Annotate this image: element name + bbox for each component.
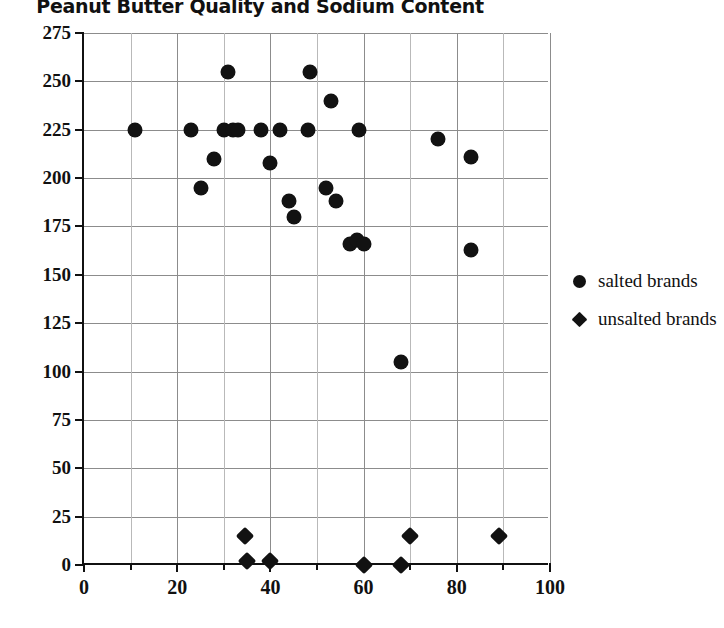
data-point-circle xyxy=(272,122,287,137)
y-axis-tick xyxy=(75,516,84,518)
gridline-horizontal xyxy=(84,420,548,421)
y-axis-tick-label: 0 xyxy=(62,554,72,576)
gridline-horizontal xyxy=(84,130,548,131)
y-axis-tick xyxy=(75,177,84,179)
x-axis-tick-label: 100 xyxy=(535,576,565,599)
legend-label-salted: salted brands xyxy=(598,270,698,292)
x-axis-tick-label: 60 xyxy=(354,576,374,599)
chart-legend: salted brands unsalted brands xyxy=(566,262,717,338)
plot-area: 0255075100125150175200225250275020406080… xyxy=(82,33,548,565)
data-point-circle xyxy=(393,354,408,369)
y-axis-tick xyxy=(75,225,84,227)
data-point-circle xyxy=(463,242,478,257)
legend-item-unsalted[interactable]: unsalted brands xyxy=(566,300,717,338)
circle-marker-icon xyxy=(566,275,592,288)
gridline-horizontal xyxy=(84,178,548,179)
data-point-diamond xyxy=(236,527,254,545)
data-point-circle xyxy=(254,122,269,137)
gridline-vertical-minor xyxy=(131,33,132,563)
data-point-circle xyxy=(323,93,338,108)
data-point-diamond xyxy=(261,552,279,570)
data-point-circle xyxy=(356,236,371,251)
data-point-diamond xyxy=(238,552,256,570)
y-axis-tick xyxy=(75,419,84,421)
y-axis-tick xyxy=(75,322,84,324)
data-point-circle xyxy=(128,122,143,137)
gridline-vertical-minor xyxy=(224,33,225,563)
legend-label-unsalted: unsalted brands xyxy=(598,308,717,330)
x-axis-tick xyxy=(176,563,178,572)
data-point-circle xyxy=(351,122,366,137)
x-axis-tick-label: 80 xyxy=(447,576,467,599)
x-axis-tick xyxy=(83,563,85,572)
y-axis-tick xyxy=(75,274,84,276)
y-axis-tick-label: 250 xyxy=(43,70,72,92)
x-axis-tick xyxy=(456,563,458,572)
y-axis-tick-label: 200 xyxy=(43,167,72,189)
data-point-circle xyxy=(431,132,446,147)
y-axis-tick-label: 50 xyxy=(52,457,71,479)
gridline-horizontal xyxy=(84,81,548,82)
y-axis-tick-label: 150 xyxy=(43,264,72,286)
y-axis-tick-label: 25 xyxy=(52,506,71,528)
y-axis-tick xyxy=(75,32,84,34)
chart-title: Peanut Butter Quality and Sodium Content xyxy=(0,0,520,17)
data-point-circle xyxy=(193,180,208,195)
x-axis-tick xyxy=(549,563,551,572)
data-point-circle xyxy=(263,155,278,170)
data-point-diamond xyxy=(354,556,372,574)
gridline-horizontal xyxy=(84,323,548,324)
data-point-circle xyxy=(319,180,334,195)
gridline-vertical-minor xyxy=(410,33,411,563)
data-point-circle xyxy=(282,194,297,209)
data-point-circle xyxy=(221,64,236,79)
x-axis-tick-minor xyxy=(223,563,225,570)
gridline-horizontal xyxy=(84,226,548,227)
gridline-vertical xyxy=(550,33,551,563)
y-axis-tick-label: 75 xyxy=(52,409,71,431)
data-point-circle xyxy=(328,194,343,209)
data-point-circle xyxy=(303,64,318,79)
x-axis-tick-minor xyxy=(502,563,504,570)
legend-item-salted[interactable]: salted brands xyxy=(566,262,717,300)
data-point-circle xyxy=(184,122,199,137)
gridline-vertical xyxy=(364,33,365,563)
gridline-vertical-minor xyxy=(503,33,504,563)
y-axis-tick-label: 225 xyxy=(43,119,72,141)
y-axis-tick-label: 100 xyxy=(43,361,72,383)
data-point-diamond xyxy=(392,556,410,574)
gridline-vertical xyxy=(177,33,178,563)
y-axis-tick xyxy=(75,467,84,469)
diamond-marker-icon xyxy=(566,314,592,325)
gridline-horizontal xyxy=(84,468,548,469)
x-axis-tick-label: 20 xyxy=(167,576,187,599)
gridline-vertical xyxy=(457,33,458,563)
y-axis-tick-label: 175 xyxy=(43,215,72,237)
y-axis-tick-label: 125 xyxy=(43,312,72,334)
data-point-diamond xyxy=(490,527,508,545)
x-axis-tick-minor xyxy=(130,563,132,570)
y-axis-tick-label: 275 xyxy=(43,22,72,44)
gridline-vertical xyxy=(270,33,271,563)
x-axis-tick-minor xyxy=(316,563,318,570)
data-point-circle xyxy=(463,149,478,164)
y-axis-tick xyxy=(75,129,84,131)
gridline-vertical-minor xyxy=(317,33,318,563)
gridline-horizontal xyxy=(84,517,548,518)
data-point-circle xyxy=(207,151,222,166)
data-point-circle xyxy=(286,209,301,224)
data-point-diamond xyxy=(401,527,419,545)
data-point-circle xyxy=(300,122,315,137)
gridline-horizontal xyxy=(84,372,548,373)
gridline-horizontal xyxy=(84,33,548,34)
y-axis-tick xyxy=(75,80,84,82)
x-axis-tick-label: 40 xyxy=(260,576,280,599)
gridline-horizontal xyxy=(84,275,548,276)
x-axis-tick-label: 0 xyxy=(79,576,89,599)
data-point-circle xyxy=(230,122,245,137)
y-axis-tick xyxy=(75,371,84,373)
